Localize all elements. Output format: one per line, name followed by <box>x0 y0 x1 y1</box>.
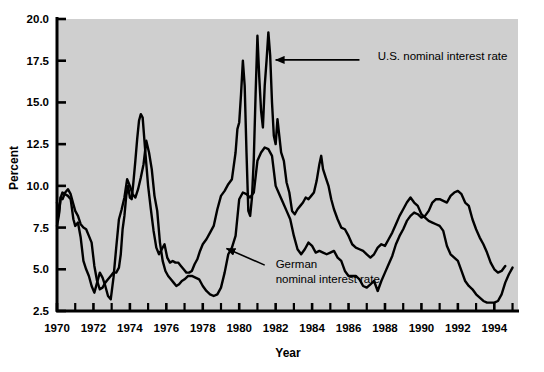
x-tick-label: 1988 <box>372 322 398 334</box>
x-tick-label: 1990 <box>409 322 435 334</box>
y-tick-label: 5.0 <box>33 263 49 275</box>
x-tick-label: 1974 <box>117 322 143 334</box>
y-tick-label: 17.5 <box>27 55 50 67</box>
x-tick-label: 1982 <box>263 322 289 334</box>
y-tick-label: 15.0 <box>27 96 49 108</box>
y-tick-label: 12.5 <box>27 138 50 150</box>
interest-rate-line-chart: 2.55.07.510.012.515.017.520.0 1970197219… <box>0 0 544 372</box>
x-tick-label: 1992 <box>445 322 471 334</box>
chart-figure: 2.55.07.510.012.515.017.520.0 1970197219… <box>0 0 544 372</box>
y-tick-label: 20.0 <box>27 13 49 25</box>
y-tick-label: 7.5 <box>33 222 50 234</box>
x-tick-label: 1978 <box>190 322 216 334</box>
x-tick-label: 1986 <box>336 322 362 334</box>
x-tick-label: 1976 <box>154 322 180 334</box>
german-series-annotation-text: nominal interest rate <box>276 273 380 285</box>
x-tick-label: 1994 <box>482 322 508 334</box>
x-axis-title: Year <box>275 346 301 360</box>
y-tick-label: 2.5 <box>33 305 50 317</box>
x-tick-label: 1980 <box>226 322 252 334</box>
german-series-annotation-text: German <box>276 258 318 270</box>
x-tick-label: 1984 <box>299 322 325 334</box>
x-tick-label: 1970 <box>44 322 70 334</box>
x-tick-label: 1972 <box>81 322 107 334</box>
y-axis-title: Percent <box>7 146 21 190</box>
us-series-annotation-text: U.S. nominal interest rate <box>378 50 508 62</box>
y-tick-label: 10.0 <box>27 180 49 192</box>
